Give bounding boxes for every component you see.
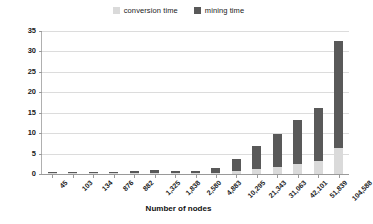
bar-segment-mining-time[interactable] (232, 159, 241, 170)
legend-label-mining-time: mining time (205, 6, 244, 15)
x-axis-tick-label: 134 (101, 179, 114, 192)
bar-slot[interactable] (42, 31, 62, 174)
x-axis-tick-label: 42,101 (308, 179, 328, 199)
x-axis-tick-label: 104,588 (350, 179, 373, 202)
x-axis-tick-label: 51,839 (329, 179, 349, 199)
bar-slot[interactable] (247, 31, 267, 174)
bar-segment-conversion-time[interactable] (191, 173, 200, 174)
x-axis-tick-mark (134, 175, 135, 178)
bar-segment-conversion-time[interactable] (211, 173, 220, 174)
stacked-bar[interactable] (89, 172, 98, 174)
bar-slot[interactable] (206, 31, 226, 174)
x-axis-tick-label: 10,295 (247, 179, 267, 199)
x-axis-title: Number of nodes (0, 204, 357, 213)
bar-slot[interactable] (226, 31, 246, 174)
stacked-bar[interactable] (314, 108, 323, 174)
x-axis-tick-mark (236, 175, 237, 178)
stacked-bar[interactable] (232, 159, 241, 174)
x-axis-tick-label: 1,325 (164, 179, 181, 196)
stacked-bar[interactable] (130, 171, 139, 174)
bar-segment-conversion-time[interactable] (171, 173, 180, 174)
bar-segment-conversion-time[interactable] (252, 169, 261, 174)
y-axis-tick-label: 25 (12, 67, 36, 76)
bar-segment-mining-time[interactable] (273, 134, 282, 167)
stacked-bar[interactable] (109, 172, 118, 174)
y-axis-tick-label: 0 (12, 169, 36, 178)
bar-slot[interactable] (165, 31, 185, 174)
bar-series-group (42, 31, 349, 174)
x-axis-tick-mark (318, 175, 319, 178)
y-axis-tick-mark (39, 174, 42, 175)
bar-slot[interactable] (62, 31, 82, 174)
x-axis-tick-label: 1,838 (184, 179, 201, 196)
bar-segment-conversion-time[interactable] (293, 164, 302, 174)
bar-segment-conversion-time[interactable] (150, 173, 159, 174)
x-axis-tick-mark (114, 175, 115, 178)
bar-slot[interactable] (144, 31, 164, 174)
chart-legend: conversion time mining time (0, 6, 357, 15)
y-axis-tick-label: 15 (12, 108, 36, 117)
bar-slot[interactable] (329, 31, 349, 174)
plot-area: 05101520253035 451031348768821,3251,8382… (41, 31, 349, 175)
bar-slot[interactable] (288, 31, 308, 174)
stacked-bar[interactable] (48, 172, 57, 174)
x-axis-tick-label: 103 (80, 179, 93, 192)
x-axis-tick-mark (52, 175, 53, 178)
x-axis-tick-mark (257, 175, 258, 178)
bar-segment-conversion-time[interactable] (48, 173, 57, 174)
bar-segment-mining-time[interactable] (334, 41, 343, 148)
x-axis-tick-mark (339, 175, 340, 178)
x-axis-tick-label: 4,883 (225, 179, 242, 196)
bar-slot[interactable] (308, 31, 328, 174)
bar-slot[interactable] (83, 31, 103, 174)
bar-segment-conversion-time[interactable] (89, 173, 98, 174)
legend-item-mining-time: mining time (194, 6, 244, 15)
stacked-bar[interactable] (150, 170, 159, 174)
x-axis-tick-label: 31,063 (288, 179, 308, 199)
x-axis-tick-label: 2,580 (205, 179, 222, 196)
x-axis-tick-label: 882 (142, 179, 155, 192)
bar-slot[interactable] (267, 31, 287, 174)
bar-slot[interactable] (185, 31, 205, 174)
stacked-bar[interactable] (211, 168, 220, 174)
y-axis-tick-label: 20 (12, 87, 36, 96)
x-axis-tick-mark (298, 175, 299, 178)
x-axis-tick-mark (196, 175, 197, 178)
stacked-bar[interactable] (334, 41, 343, 174)
legend-label-conversion-time: conversion time (124, 6, 178, 15)
bar-slot[interactable] (124, 31, 144, 174)
bar-segment-conversion-time[interactable] (130, 173, 139, 174)
y-axis-tick-label: 30 (12, 46, 36, 55)
legend-swatch-conversion-time (113, 7, 120, 14)
legend-item-conversion-time: conversion time (113, 6, 178, 15)
stacked-bar[interactable] (171, 171, 180, 174)
stacked-bar[interactable] (68, 172, 77, 174)
x-axis-tick-mark (73, 175, 74, 178)
legend-swatch-mining-time (194, 7, 201, 14)
x-axis-tick-mark (155, 175, 156, 178)
stacked-bar[interactable] (293, 120, 302, 174)
bar-segment-conversion-time[interactable] (68, 173, 77, 174)
bar-segment-mining-time[interactable] (252, 146, 261, 169)
bar-segment-conversion-time[interactable] (334, 148, 343, 174)
x-axis-tick-label: 45 (59, 179, 69, 189)
stacked-bar[interactable] (273, 134, 282, 174)
x-axis-tick-label: 876 (121, 179, 134, 192)
stacked-bar[interactable] (191, 171, 200, 174)
x-axis-tick-mark (277, 175, 278, 178)
x-axis-tick-mark (175, 175, 176, 178)
y-axis-tick-label: 5 (12, 149, 36, 158)
x-axis-tick-mark (93, 175, 94, 178)
y-axis-tick-label: 10 (12, 128, 36, 137)
bar-segment-mining-time[interactable] (314, 108, 323, 161)
x-axis-tick-mark (216, 175, 217, 178)
bar-segment-conversion-time[interactable] (109, 173, 118, 174)
stacked-bar[interactable] (252, 146, 261, 174)
bar-slot[interactable] (103, 31, 123, 174)
bar-segment-conversion-time[interactable] (314, 161, 323, 174)
bar-segment-conversion-time[interactable] (273, 167, 282, 174)
y-axis-tick-label: 35 (12, 26, 36, 35)
bar-segment-mining-time[interactable] (293, 120, 302, 164)
bar-segment-conversion-time[interactable] (232, 171, 241, 174)
